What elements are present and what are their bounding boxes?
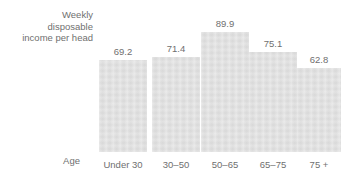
x-axis-caption: Age [0, 155, 80, 167]
bar-category-label: 75 + [291, 159, 347, 171]
bar-group: 75.1 65–75 [249, 0, 297, 180]
bar-rect[interactable] [297, 68, 341, 152]
bar-value-label: 75.1 [249, 38, 297, 49]
bar-group: 89.9 50–65 [201, 0, 249, 180]
bar-value-label: 71.4 [152, 43, 200, 54]
bar-value-label: 62.8 [297, 54, 341, 65]
plot-area: 69.2 Under 30 71.4 30–50 89.9 50–65 75.1… [99, 0, 341, 180]
bar-rect[interactable] [201, 32, 249, 152]
bar-group: 71.4 30–50 [152, 0, 200, 180]
bar-group: 69.2 Under 30 [99, 0, 147, 180]
bar-chart: Weekly disposable income per head Age 69… [0, 0, 351, 180]
y-axis-caption: Weekly disposable income per head [0, 9, 93, 44]
bar-rect[interactable] [249, 52, 297, 152]
bar-group: 62.8 75 + [297, 0, 341, 180]
bar-rect[interactable] [99, 60, 147, 152]
bar-rect[interactable] [152, 57, 200, 152]
bar-category-label: Under 30 [93, 159, 153, 171]
bar-value-label: 69.2 [99, 46, 147, 57]
bar-value-label: 89.9 [201, 18, 249, 29]
